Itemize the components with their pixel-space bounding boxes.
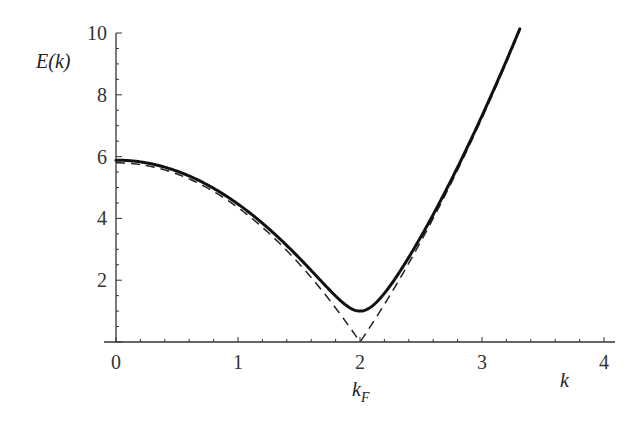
x-tick-label: 3 bbox=[477, 351, 487, 373]
solid-curve bbox=[116, 29, 520, 311]
y-tick-label: 2 bbox=[97, 269, 107, 291]
x-axis-label: k bbox=[560, 369, 570, 391]
x-tick-label: 1 bbox=[233, 351, 243, 373]
y-tick-label: 8 bbox=[97, 84, 107, 106]
x-tick-label: 4 bbox=[599, 351, 609, 373]
x-tick-label: 2 bbox=[355, 351, 365, 373]
kf-annotation: kF bbox=[352, 378, 370, 405]
dashed-curve bbox=[116, 30, 520, 341]
x-tick-label: 0 bbox=[111, 351, 121, 373]
y-tick-label: 6 bbox=[97, 146, 107, 168]
curves bbox=[116, 29, 520, 342]
chart: 01234246810 E(k) k kF bbox=[0, 0, 642, 426]
axes: 01234246810 bbox=[87, 22, 615, 373]
y-tick-label: 10 bbox=[87, 22, 107, 44]
y-tick-label: 4 bbox=[97, 207, 107, 229]
y-axis-label: E(k) bbox=[35, 50, 71, 73]
